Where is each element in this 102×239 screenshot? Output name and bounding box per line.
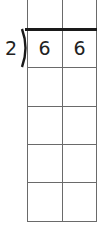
work-cell[interactable] (63, 145, 98, 182)
dividend-digit-2: 6 (62, 29, 97, 67)
work-cell[interactable] (63, 107, 98, 144)
grid-line-bottom (27, 221, 97, 222)
dividend-digit-1: 6 (27, 29, 62, 67)
work-cell[interactable] (28, 68, 63, 106)
work-cell[interactable] (28, 183, 63, 221)
divisor: 2 (2, 29, 20, 67)
work-cell[interactable] (63, 183, 98, 221)
work-cell[interactable] (28, 145, 63, 182)
work-cell[interactable] (28, 107, 63, 144)
work-cell[interactable] (63, 68, 98, 106)
